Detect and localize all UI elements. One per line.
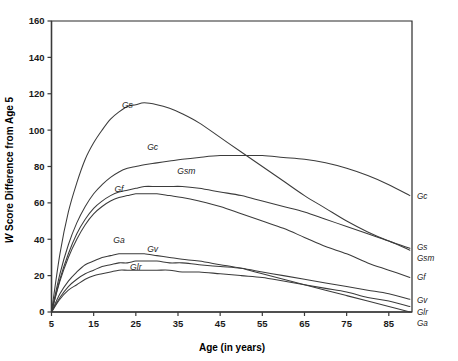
curve-gv xyxy=(52,261,410,312)
x-tick-label: 65 xyxy=(299,318,310,329)
y-axis-ticks: 020406080100120140160 xyxy=(29,15,52,317)
cognitive-abilities-growth-curve-chart: 020406080100120140160 51525354555657585 … xyxy=(0,0,458,361)
edge-label-gsm: Gsm xyxy=(417,254,434,263)
y-tick-label: 120 xyxy=(29,88,45,99)
x-tick-label: 5 xyxy=(49,318,55,329)
x-tick-label: 45 xyxy=(215,318,226,329)
x-axis-ticks: 51525354555657585 xyxy=(49,312,395,329)
x-tick-label: 55 xyxy=(257,318,268,329)
y-tick-label: 0 xyxy=(39,306,44,317)
x-tick-label: 75 xyxy=(341,318,352,329)
curve-gsm xyxy=(52,186,410,312)
inline-label-gv: Gv xyxy=(147,244,159,254)
x-tick-label: 25 xyxy=(131,318,142,329)
y-tick-label: 100 xyxy=(29,125,45,136)
curve-ga xyxy=(52,254,410,312)
y-tick-label: 140 xyxy=(29,52,45,63)
edge-label-ga: Ga xyxy=(417,319,428,328)
inline-label-gc: Gc xyxy=(147,142,159,152)
data-curves xyxy=(52,103,410,312)
edge-label-gf: Gf xyxy=(417,273,426,282)
chart-figure: 020406080100120140160 51525354555657585 … xyxy=(0,0,458,361)
x-tick-label: 85 xyxy=(384,318,395,329)
x-tick-label: 35 xyxy=(173,318,184,329)
inline-label-gf: Gf xyxy=(114,184,125,194)
curve-glr xyxy=(52,270,410,312)
inline-label-ga: Ga xyxy=(113,235,125,245)
y-tick-label: 20 xyxy=(34,270,45,281)
y-axis-title: W Score Difference from Age 5 xyxy=(4,96,15,243)
inline-label-gsm: Gsm xyxy=(177,166,195,176)
plot-frame xyxy=(52,21,413,312)
edge-series-labels: GsGcGsmGfGaGvGlr xyxy=(417,192,434,328)
y-axis-title-rest: Score Difference from Age 5 xyxy=(4,96,15,233)
y-tick-label: 40 xyxy=(34,234,45,245)
x-axis-title: Age (in years) xyxy=(199,342,265,353)
inline-label-gs: Gs xyxy=(122,100,134,110)
x-tick-label: 15 xyxy=(88,318,99,329)
curve-gs xyxy=(52,103,410,312)
edge-label-gs: Gs xyxy=(417,243,427,252)
y-tick-label: 60 xyxy=(34,197,45,208)
inline-label-glr: Glr xyxy=(130,262,143,272)
y-tick-label: 80 xyxy=(34,161,45,172)
edge-label-gc: Gc xyxy=(417,192,427,201)
edge-label-glr: Glr xyxy=(417,308,428,317)
edge-label-gv: Gv xyxy=(417,296,428,305)
plot-border xyxy=(52,21,413,312)
y-tick-label: 160 xyxy=(29,15,45,26)
